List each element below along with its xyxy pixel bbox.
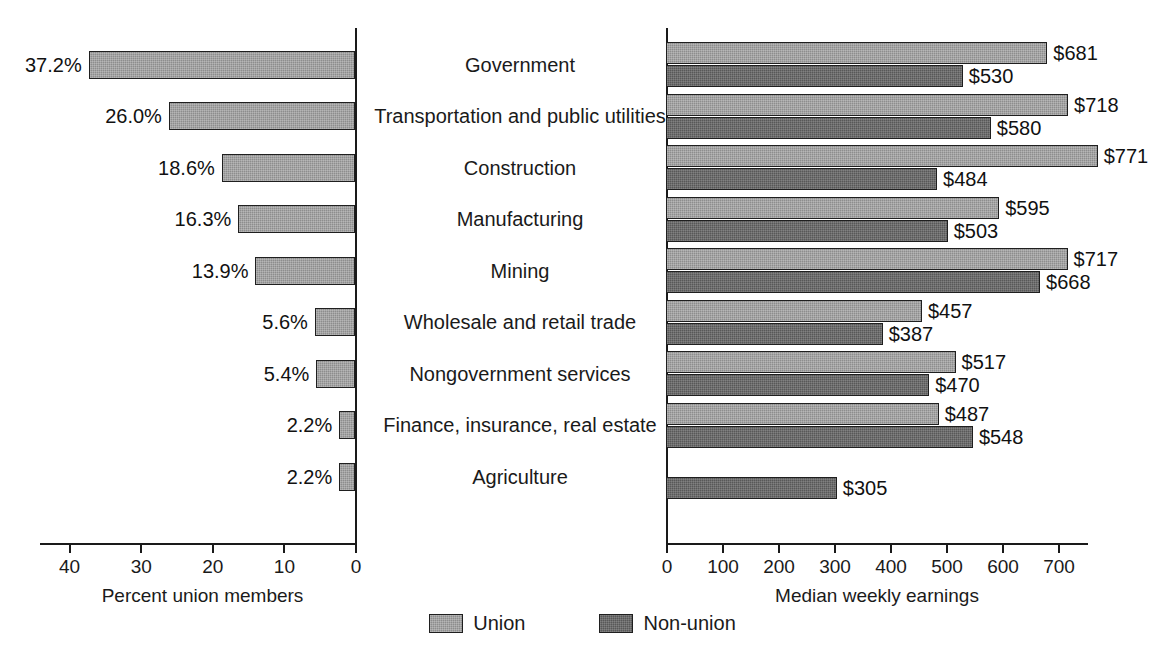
category-label-3: Manufacturing [457,209,584,229]
right-bar-value-non-union-6: $470 [935,375,980,395]
right-bar-union-3 [666,197,999,219]
right-bar-non-union-6 [666,374,929,396]
right-axis-tick-700 [1058,545,1060,553]
right-bar-value-union-3: $595 [1005,198,1050,218]
right-axis-tick-label-300: 300 [819,556,851,578]
left-panel-zero-axis [355,28,357,543]
right-bar-union-2 [666,145,1098,167]
left-bar-value-4: 13.9% [192,261,249,281]
left-bar-5 [315,308,355,336]
legend-item-non-union: Non-union [599,612,735,635]
right-axis-tick-300 [834,545,836,553]
category-label-2: Construction [464,158,576,178]
left-axis-tick-label-20: 20 [202,556,223,578]
right-bar-value-non-union-2: $484 [943,169,988,189]
right-bar-value-non-union-3: $503 [954,221,999,241]
category-label-5: Wholesale and retail trade [404,312,636,332]
right-bar-union-7 [666,403,939,425]
right-axis-tick-label-700: 700 [1043,556,1075,578]
left-bar-8 [339,463,355,491]
right-panel-x-axis [666,543,1088,545]
right-bar-value-union-7: $487 [945,404,990,424]
left-axis-tick-30 [140,545,142,553]
right-axis-tick-200 [778,545,780,553]
union-membership-earnings-chart: 403020100Percent union members37.2%26.0%… [0,0,1165,660]
right-bar-non-union-3 [666,220,948,242]
left-bar-value-0: 37.2% [25,55,82,75]
right-axis-tick-label-100: 100 [707,556,739,578]
left-axis-tick-label-30: 30 [131,556,152,578]
right-axis-tick-label-400: 400 [875,556,907,578]
left-axis-title: Percent union members [102,585,304,607]
right-bar-value-non-union-8: $305 [843,478,888,498]
right-bar-non-union-7 [666,426,973,448]
category-label-6: Nongovernment services [409,364,630,384]
right-axis-tick-0 [666,545,668,553]
right-bar-non-union-8 [666,477,837,499]
left-bar-value-2: 18.6% [158,158,215,178]
right-bar-value-union-6: $517 [962,352,1007,372]
right-bar-non-union-2 [666,168,937,190]
right-axis-tick-label-500: 500 [931,556,963,578]
right-axis-tick-label-0: 0 [662,556,673,578]
category-label-8: Agriculture [472,467,568,487]
right-axis-title: Median weekly earnings [775,585,979,607]
right-axis-tick-500 [946,545,948,553]
left-bar-2 [222,154,355,182]
legend-swatch-non-union [599,614,633,633]
left-axis-tick-label-10: 10 [274,556,295,578]
left-bar-value-6: 5.4% [264,364,310,384]
right-bar-union-0 [666,42,1047,64]
right-bar-non-union-0 [666,65,963,87]
right-bar-non-union-5 [666,323,883,345]
left-bar-value-1: 26.0% [105,106,162,126]
left-axis-tick-0 [355,545,357,553]
legend-item-union: Union [429,612,525,635]
left-axis-tick-20 [212,545,214,553]
left-bar-6 [316,360,355,388]
right-bar-value-union-1: $718 [1074,95,1119,115]
right-axis-tick-label-200: 200 [763,556,795,578]
right-bar-union-5 [666,300,922,322]
left-axis-tick-label-40: 40 [59,556,80,578]
category-label-7: Finance, insurance, real estate [383,415,657,435]
left-panel-x-axis [40,543,357,545]
left-bar-value-5: 5.6% [262,312,308,332]
chart-legend: UnionNon-union [0,612,1165,635]
right-axis-tick-600 [1002,545,1004,553]
right-bar-value-non-union-5: $387 [889,324,934,344]
right-axis-tick-label-600: 600 [987,556,1019,578]
right-bar-value-non-union-0: $530 [969,66,1014,86]
category-label-0: Government [465,55,575,75]
left-axis-tick-10 [283,545,285,553]
right-axis-tick-100 [722,545,724,553]
legend-swatch-union [429,614,463,633]
right-bar-value-union-0: $681 [1053,43,1098,63]
right-bar-value-non-union-7: $548 [979,427,1024,447]
right-bar-union-4 [666,248,1068,270]
left-axis-tick-40 [69,545,71,553]
left-bar-1 [169,102,355,130]
category-label-1: Transportation and public utilities [374,106,666,126]
left-bar-value-8: 2.2% [287,467,333,487]
right-bar-non-union-4 [666,271,1040,293]
left-bar-value-7: 2.2% [287,415,333,435]
right-axis-tick-400 [890,545,892,553]
right-bar-non-union-1 [666,117,991,139]
legend-label-union: Union [473,612,525,635]
right-bar-value-union-4: $717 [1074,249,1119,269]
left-bar-3 [238,205,355,233]
category-label-4: Mining [491,261,550,281]
left-bar-0 [89,51,355,79]
left-axis-tick-label-0: 0 [351,556,362,578]
right-bar-union-6 [666,351,956,373]
right-bar-value-union-5: $457 [928,301,973,321]
legend-label-non-union: Non-union [643,612,735,635]
right-bar-union-1 [666,94,1068,116]
right-bar-value-non-union-1: $580 [997,118,1042,138]
right-bar-value-non-union-4: $668 [1046,272,1091,292]
left-bar-7 [339,411,355,439]
left-bar-value-3: 16.3% [175,209,232,229]
right-bar-value-union-2: $771 [1104,146,1149,166]
left-bar-4 [255,257,355,285]
